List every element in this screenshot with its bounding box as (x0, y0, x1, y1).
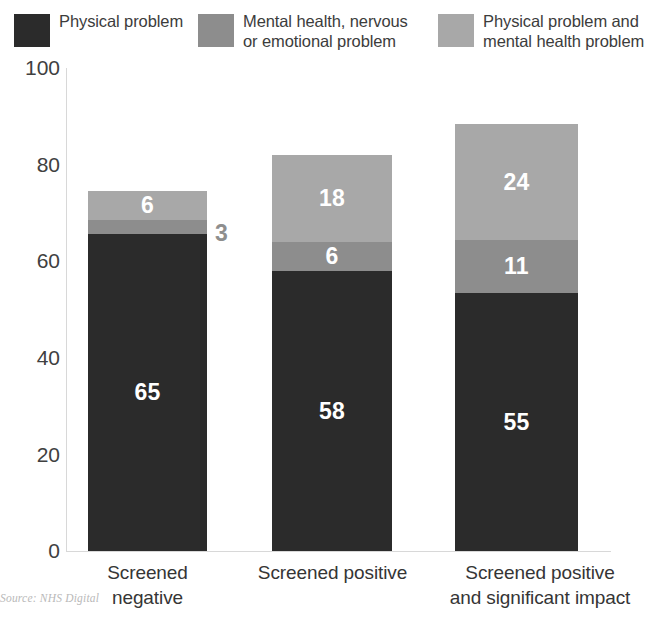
y-axis-line (66, 68, 67, 552)
bar-value-physical-2: 55 (503, 409, 529, 436)
y-tick-label-100: 100 (2, 56, 60, 80)
y-tick-label-0: 0 (2, 539, 60, 563)
bar-segment-mental-0[interactable]: 3 (88, 220, 207, 234)
y-tick-label-40: 40 (2, 346, 60, 370)
bar-segment-physical-1[interactable]: 58 (272, 271, 392, 551)
bar-value-mental-2: 11 (504, 253, 529, 280)
bar-value-both-2: 24 (503, 169, 529, 196)
chart-plot-area: 100 80 60 40 20 0 6 3 65 18 6 58 24 11 (0, 0, 651, 618)
source-note: Source: NHS Digital (0, 592, 99, 604)
bar-segment-both-2[interactable]: 24 (455, 124, 578, 240)
x-axis-label-screened-positive-significant: Screened positive and significant impact (440, 560, 640, 610)
x-axis-line (66, 551, 611, 552)
bar-screened-negative[interactable]: 6 3 65 (88, 191, 207, 551)
y-tick-label-60: 60 (2, 249, 60, 273)
bar-screened-positive[interactable]: 18 6 58 (272, 155, 392, 551)
bar-value-both-0: 6 (141, 192, 154, 219)
x-axis-label-screened-positive: Screened positive (255, 560, 410, 585)
bar-value-both-1: 18 (319, 185, 345, 212)
y-tick-label-80: 80 (2, 153, 60, 177)
y-tick-label-20: 20 (2, 443, 60, 467)
bar-segment-both-1[interactable]: 18 (272, 155, 392, 242)
bar-segment-physical-0[interactable]: 65 (88, 234, 207, 551)
bar-segment-mental-2[interactable]: 11 (455, 240, 578, 293)
bar-segment-both-0[interactable]: 6 (88, 191, 207, 220)
bar-value-mental-0: 3 (215, 220, 228, 247)
bar-segment-physical-2[interactable]: 55 (455, 293, 578, 551)
bar-value-physical-1: 58 (319, 398, 345, 425)
bar-screened-positive-significant[interactable]: 24 11 55 (455, 124, 578, 551)
bar-segment-mental-1[interactable]: 6 (272, 242, 392, 271)
bar-value-physical-0: 65 (134, 379, 160, 406)
bar-value-mental-1: 6 (325, 243, 338, 270)
